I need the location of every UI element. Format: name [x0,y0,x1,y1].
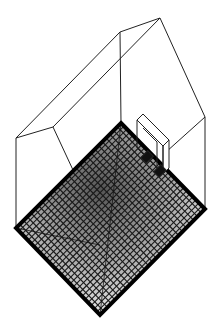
ridge-line [53,18,160,127]
gable-edge [53,127,73,170]
house-axonometric-diagram [0,0,219,327]
wall-right-base [166,117,205,152]
wall-back-corner [120,32,121,123]
box-top [137,114,169,146]
diagram-canvas [0,0,219,327]
gridded-floor [16,123,205,315]
roof-outline [16,18,205,138]
